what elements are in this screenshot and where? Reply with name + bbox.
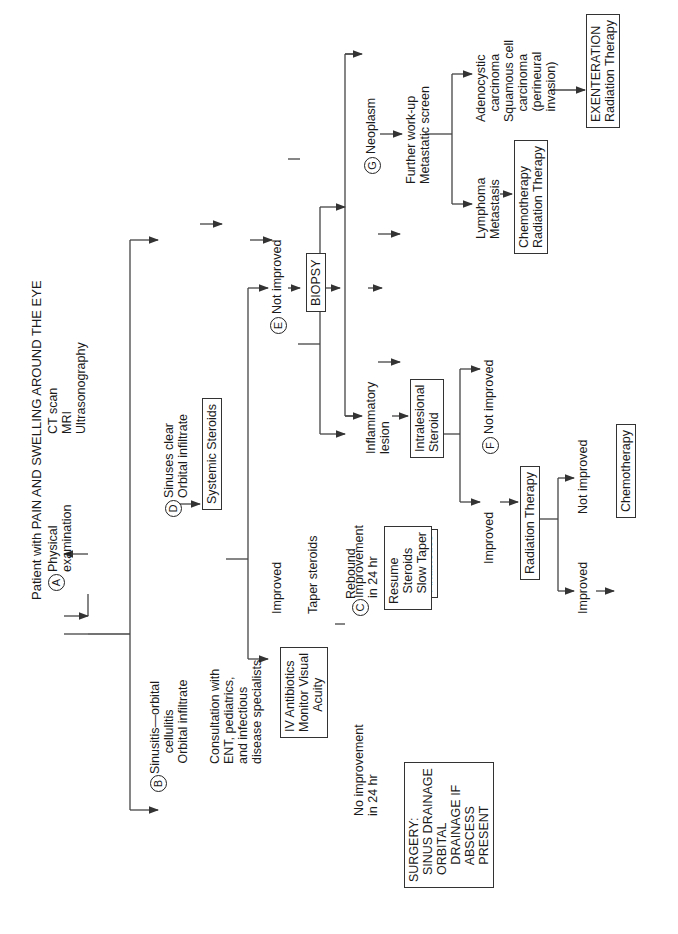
no-improvement-label: No improvement in 24 hr — [352, 724, 380, 816]
physical-exam-label: Physical examination — [46, 505, 74, 572]
flowchart-rotated: Patient with PAIN AND SWELLING AROUND TH… — [0, 0, 678, 934]
inflammatory-lesion-label: Inflammatory lesion — [364, 382, 392, 454]
consultation-label: Consultation with ENT, pediatrics, and i… — [208, 660, 264, 764]
not-improved-e-label: Not improved — [270, 240, 284, 314]
imaging-label: CT scan MRI Ultrasonography — [46, 342, 88, 434]
systemic-steroids-box: Systemic Steroids — [202, 398, 222, 510]
not-improved-label-3: Not improved — [576, 440, 590, 514]
marker-b: B — [150, 775, 167, 792]
neoplasm-label: Neoplasm — [364, 98, 378, 154]
marker-e: E — [270, 317, 287, 334]
lymphoma-label: Lymphoma Metastasis — [474, 178, 502, 239]
surgery-box: SURGERY: SINUS DRAINAGE ORBITAL DRAINAGE… — [404, 762, 494, 888]
marker-a: A — [48, 574, 65, 591]
intralesional-steroid-box: Intralesional Steroid — [410, 379, 444, 458]
rebound-label: Rebound — [344, 548, 358, 599]
marker-d: D — [165, 500, 182, 517]
exenteration-box: EXENTERATION Radiation Therapy — [586, 14, 620, 128]
marker-f: F — [482, 437, 499, 454]
not-improved-f-label: Not improved — [482, 360, 496, 434]
biopsy-box: BIOPSY — [306, 253, 326, 312]
radiation-therapy-box: Radiation Therapy — [520, 466, 540, 580]
sinusitis-label: Sinusitis—orbital cellulitis Orbital inf… — [148, 680, 190, 774]
resume-steroids-box: Resume Steroids Slow Taper — [384, 526, 432, 610]
further-workup-label: Further work-up Metastatic screen — [404, 86, 432, 184]
marker-g: G — [364, 157, 381, 174]
taper-steroids-label: Taper steroids — [306, 535, 320, 614]
adenocystic-label: Adenocystic carcinoma Squamous cell carc… — [474, 40, 558, 122]
chart-title: Patient with PAIN AND SWELLING AROUND TH… — [30, 280, 44, 600]
chemotherapy-box: Chemotherapy — [616, 424, 636, 518]
improved-label-2: Improved — [482, 512, 496, 564]
marker-c: C — [352, 599, 369, 616]
improved-label-1: Improved — [270, 562, 284, 614]
improved-label-3: Improved — [576, 562, 590, 614]
iv-antibiotics-box: IV Antibiotics Monitor Visual Acuity — [280, 647, 328, 738]
sinuses-clear-label: Sinuses clear Orbital infiltrate — [162, 414, 190, 498]
chemo-radiation-box: Chemotherapy Radiation Therapy — [514, 140, 548, 254]
